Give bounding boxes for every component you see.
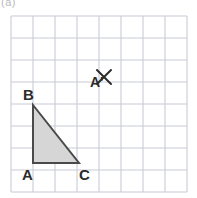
vertex-label-b: B (23, 86, 34, 103)
coordinate-grid (11, 16, 187, 192)
geometry-figure: (a) B A C A' (0, 0, 197, 198)
image-point-label-a-prime: A' (90, 74, 103, 90)
vertex-label-c: C (79, 166, 90, 183)
figure-canvas: B A C A' (0, 0, 197, 198)
vertex-label-a: A (22, 166, 33, 183)
triangle-abc-shape (33, 105, 79, 163)
